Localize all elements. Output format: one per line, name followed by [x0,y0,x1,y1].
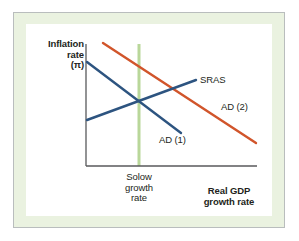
y-axis-label: Inflation rate (π) [28,39,84,71]
x-axis-label: Real GDP growth rate [186,186,272,207]
economics-diagram-figure: Inflation rate (π) SRAS AD (2) AD (1) So… [0,0,299,241]
sras-curve [87,80,196,120]
ad1-label: AD (1) [159,135,186,146]
ad2-curve [103,43,256,143]
ad1-curve [87,62,181,133]
ad2-label: AD (2) [221,102,248,113]
sras-label: SRAS [200,75,225,86]
solow-growth-rate-label: Solow growth rate [106,172,172,204]
